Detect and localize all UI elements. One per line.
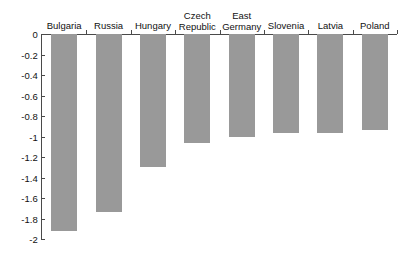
category-label: Latvia bbox=[308, 21, 352, 32]
y-axis-tick-label: -0.2 bbox=[21, 50, 38, 60]
y-axis-tick-label: -2 bbox=[29, 235, 38, 245]
bar bbox=[51, 34, 77, 231]
y-axis-tick-label: 0 bbox=[33, 30, 38, 40]
y-axis-tick-label: -1.4 bbox=[21, 173, 38, 183]
y-axis-tick-label: -0.4 bbox=[21, 71, 38, 81]
category-label: Poland bbox=[353, 21, 397, 32]
y-axis-tick bbox=[41, 239, 45, 240]
y-axis-tick-label: -1.8 bbox=[21, 214, 38, 224]
bar bbox=[140, 34, 166, 167]
bar bbox=[317, 34, 343, 133]
category-label: East Germany bbox=[220, 11, 264, 32]
y-axis-tick-label: -0.6 bbox=[21, 91, 38, 101]
y-axis-tick-label: -1 bbox=[29, 132, 38, 142]
x-axis-tick bbox=[397, 30, 398, 34]
y-axis-tick-label: -1.2 bbox=[21, 153, 38, 163]
category-label: Hungary bbox=[131, 21, 175, 32]
bar bbox=[229, 34, 255, 137]
bar bbox=[273, 34, 299, 133]
bar-chart: 0-0.2-0.4-0.6-0.8-1-1.2-1.4-1.6-1.8-2 Bu… bbox=[0, 0, 410, 255]
category-label: Slovenia bbox=[264, 21, 308, 32]
category-label: Russia bbox=[86, 21, 130, 32]
y-axis-tick-label: -1.6 bbox=[21, 194, 38, 204]
bar bbox=[96, 34, 122, 212]
category-label: Czech Republic bbox=[175, 11, 219, 32]
bar bbox=[184, 34, 210, 143]
plot-area bbox=[42, 34, 397, 239]
y-axis-tick-label: -0.8 bbox=[21, 112, 38, 122]
bar bbox=[362, 34, 388, 130]
category-label: Bulgaria bbox=[42, 21, 86, 32]
